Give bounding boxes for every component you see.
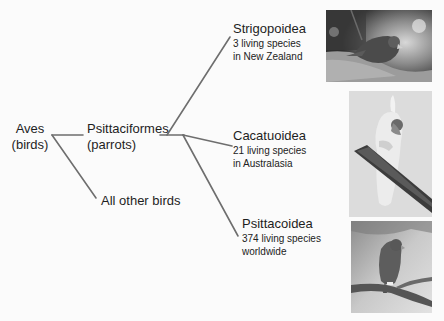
psittacoidea-photo (351, 221, 432, 313)
cacatuoidea-photo (349, 91, 432, 217)
to-psittacoidea-line (183, 135, 238, 236)
psittacoidea-range: worldwide (242, 245, 321, 258)
cacatuoidea-count: 21 living species (233, 144, 306, 157)
aves-common-name: (birds) (8, 137, 52, 153)
strigopoidea-photo (326, 10, 432, 82)
psittaciformes-label: Psittaciformes (parrots) (87, 121, 169, 153)
cacatuoidea-range: in Australasia (233, 157, 306, 170)
strigopoidea-label: Strigopoidea 3 living species in New Zea… (233, 21, 306, 63)
to-strigopoidea-line (167, 37, 230, 135)
strigopoidea-range: in New Zealand (233, 50, 306, 63)
strigopoidea-count: 3 living species (233, 37, 306, 50)
all-other-birds-label: All other birds (101, 193, 180, 209)
psittaciformes-name: Psittaciformes (87, 121, 169, 137)
psittacoidea-label: Psittacoidea 374 living species worldwid… (242, 216, 321, 258)
to-cacatuoidea-line (183, 135, 232, 146)
cacatuoidea-label: Cacatuoidea 21 living species in Austral… (233, 128, 306, 170)
aves-label: Aves (birds) (8, 121, 52, 153)
psittacoidea-name: Psittacoidea (242, 216, 321, 232)
psittacoidea-count: 374 living species (242, 232, 321, 245)
cockatoo-photo-icon (349, 91, 432, 217)
strigopoidea-name: Strigopoidea (233, 21, 306, 37)
bird-photo-icon (326, 10, 432, 82)
cacatuoidea-name: Cacatuoidea (233, 128, 306, 144)
psittaciformes-common-name: (parrots) (87, 137, 169, 153)
parrot-photo-icon (351, 221, 432, 313)
aves-name: Aves (8, 121, 52, 137)
